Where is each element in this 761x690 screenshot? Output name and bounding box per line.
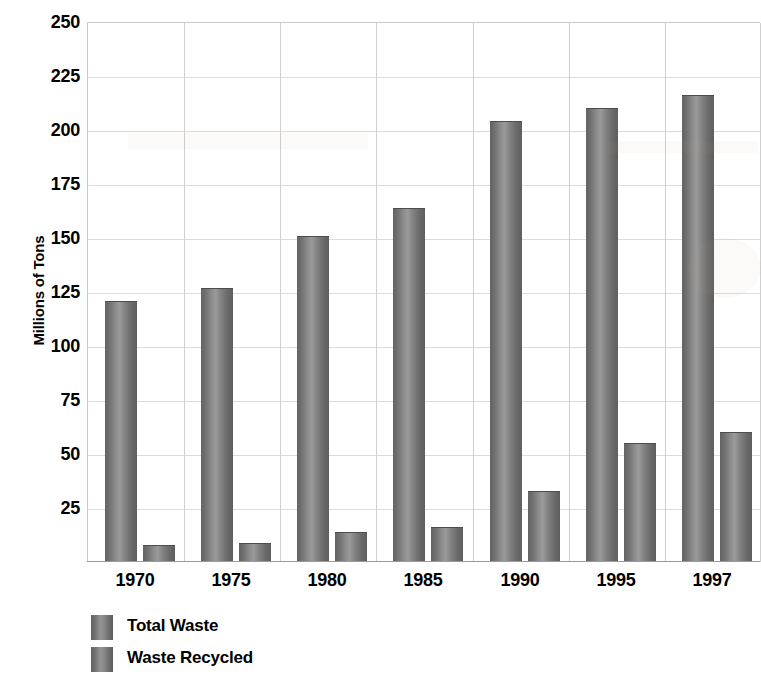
legend-label: Waste Recycled (127, 648, 253, 668)
vertical-gridline (280, 23, 281, 562)
y-tick-label: 50 (0, 445, 80, 463)
x-axis-tick-labels: 1970197519801985199019951997 (87, 566, 760, 600)
bar-total-waste-1975 (201, 288, 233, 562)
y-tick-label: 125 (0, 283, 80, 301)
bar-waste-recycled-1980 (335, 532, 367, 562)
bar-waste-recycled-1995 (624, 443, 656, 562)
bar-waste-recycled-1985 (431, 527, 463, 562)
y-tick-label: 150 (0, 229, 80, 247)
y-tick-label: 250 (0, 13, 80, 31)
y-tick-label: 25 (0, 499, 80, 517)
x-tick-label: 1975 (183, 571, 279, 589)
bar-total-waste-1970 (105, 301, 137, 562)
bar-waste-recycled-1975 (239, 543, 271, 562)
plot-area (87, 22, 760, 562)
vertical-gridline (473, 23, 474, 562)
vertical-gridline (665, 23, 666, 562)
horizontal-gridline (88, 131, 760, 132)
bar-waste-recycled-1997 (720, 432, 752, 562)
legend-item: Waste Recycled (91, 644, 491, 676)
bar-waste-recycled-1970 (143, 545, 175, 562)
x-tick-label: 1995 (568, 571, 664, 589)
vertical-gridline (569, 23, 570, 562)
bar-waste-recycled-1990 (528, 491, 560, 562)
x-tick-label: 1990 (472, 571, 568, 589)
legend-label: Total Waste (127, 616, 218, 636)
x-tick-label: 1970 (87, 571, 183, 589)
scan-artifact (128, 133, 368, 149)
x-tick-label: 1997 (664, 571, 760, 589)
legend-item: Total Waste (91, 612, 491, 644)
y-tick-label: 200 (0, 121, 80, 139)
bar-total-waste-1995 (586, 108, 618, 562)
bar-total-waste-1990 (490, 121, 522, 562)
x-tick-label: 1985 (375, 571, 471, 589)
bar-total-waste-1985 (393, 208, 425, 562)
x-axis-baseline (87, 561, 760, 562)
vertical-gridline (376, 23, 377, 562)
legend-swatch-icon (91, 615, 113, 640)
horizontal-gridline (88, 185, 760, 186)
y-axis-tick-labels: 255075100125150175200225250 (0, 0, 80, 580)
y-tick-label: 100 (0, 337, 80, 355)
legend-swatch-icon (91, 647, 113, 672)
bar-total-waste-1997 (682, 95, 714, 562)
vertical-gridline (184, 23, 185, 562)
y-tick-label: 75 (0, 391, 80, 409)
horizontal-gridline (88, 77, 760, 78)
y-tick-label: 225 (0, 67, 80, 85)
bar-total-waste-1980 (297, 236, 329, 562)
y-tick-label: 175 (0, 175, 80, 193)
chart-legend: Total WasteWaste Recycled (91, 612, 491, 676)
x-tick-label: 1980 (279, 571, 375, 589)
